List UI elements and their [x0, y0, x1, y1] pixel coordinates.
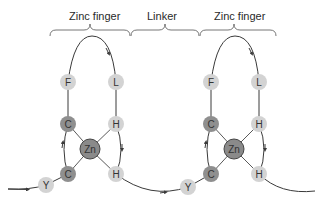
label-zinc-finger-1: Zinc finger: [69, 10, 121, 22]
svg-text:L: L: [256, 77, 262, 88]
svg-text:H: H: [112, 119, 119, 130]
label-zinc-finger-2: Zinc finger: [214, 10, 266, 22]
brace-linker: [131, 24, 199, 36]
arrow-icon: [8, 189, 28, 190]
residue-h-bottom-1: H: [108, 166, 124, 182]
brace-zinc-finger-2: [200, 24, 276, 36]
brace-zinc-finger-1: [50, 24, 130, 36]
svg-text:H: H: [255, 169, 262, 180]
residue-f-1: F: [60, 74, 76, 90]
svg-text:Y: Y: [43, 180, 50, 191]
residue-y-1: Y: [38, 177, 54, 193]
residue-c-bottom-1: C: [60, 166, 76, 182]
residue-l-1: L: [108, 74, 124, 90]
residue-c-top-2: C: [203, 116, 219, 132]
label-linker: Linker: [147, 10, 177, 22]
residue-l-2: L: [251, 74, 267, 90]
residue-h-top-2: H: [251, 116, 267, 132]
residue-f-2: F: [203, 74, 219, 90]
svg-text:Y: Y: [185, 182, 192, 193]
svg-text:C: C: [207, 169, 214, 180]
svg-text:C: C: [64, 169, 71, 180]
arrow-icon: [205, 142, 206, 148]
svg-text:Zn: Zn: [84, 144, 96, 155]
residue-y-2: Y: [180, 179, 196, 195]
arrow-icon: [160, 192, 166, 193]
zinc-finger-diagram: Zinc finger Linker Zinc finger F L C H Z…: [0, 0, 325, 204]
residue-c-top-1: C: [60, 116, 76, 132]
svg-text:C: C: [207, 119, 214, 130]
zinc-ion-2: Zn: [224, 139, 244, 159]
residue-h-top-1: H: [108, 116, 124, 132]
svg-text:C: C: [64, 119, 71, 130]
svg-text:Zn: Zn: [228, 144, 240, 155]
svg-text:H: H: [112, 169, 119, 180]
residue-h-bottom-2: H: [251, 166, 267, 182]
svg-text:F: F: [208, 77, 214, 88]
residue-c-bottom-2: C: [203, 166, 219, 182]
svg-text:L: L: [113, 77, 119, 88]
zinc-ion-1: Zn: [80, 139, 100, 159]
svg-text:F: F: [65, 77, 71, 88]
svg-text:H: H: [255, 119, 262, 130]
arrow-icon: [62, 142, 63, 148]
